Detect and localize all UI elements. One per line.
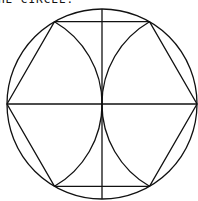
geometric-construction-diagram [0, 0, 198, 201]
